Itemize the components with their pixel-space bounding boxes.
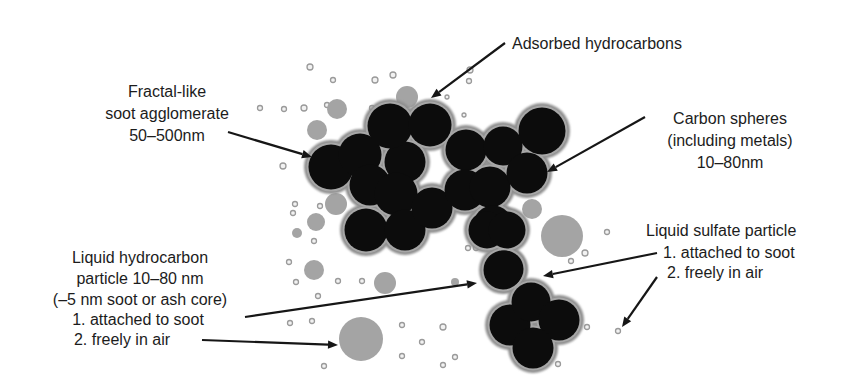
label-line: 10–80nm [697,154,764,171]
small-particle [310,319,315,324]
small-particle [582,250,588,256]
label-line: Fractal-like [128,83,206,100]
label-line: (including metals) [667,132,792,149]
label-line: 1. attached to soot [72,311,204,328]
label-line: soot agglomerate [105,105,229,122]
label-line: Liquid sulfate particle [646,222,796,239]
small-particle [312,239,317,244]
small-particle [616,329,621,334]
liquid-particle [374,272,396,294]
small-particle [360,279,365,284]
small-particle [280,163,286,169]
small-particle [372,77,378,83]
small-particle [318,204,323,209]
carbon-sphere-core [375,173,418,216]
small-particle [288,321,293,326]
small-particle [322,364,327,369]
carbon-sphere-core [513,328,554,369]
small-particle [287,260,292,265]
small-particle [445,95,449,99]
label-line: (–5 nm soot or ash core) [53,291,227,308]
carbon-sphere-core [345,209,388,252]
small-particle [307,64,313,70]
carbon-sphere-core [470,167,511,208]
carbon-sphere-core [519,108,566,155]
small-particle [331,78,336,83]
liquid-particle [327,99,347,119]
carbon-sphere-core [489,212,526,249]
small-particle [400,323,405,328]
small-particle [466,246,471,251]
liquid-particle [292,228,302,238]
liquid-particle [304,260,324,280]
small-particle [420,340,425,345]
small-particle [605,230,610,235]
small-particle [294,280,299,285]
small-particle [569,259,574,264]
small-particle [462,113,466,117]
liquid-particle [541,215,583,257]
liquid-particle [307,120,327,140]
small-particle [316,294,321,299]
label-adsorbed: Adsorbed hydrocarbons [512,35,682,52]
label-line: Adsorbed hydrocarbons [512,35,682,52]
label-line: 2. freely in air [74,331,171,348]
small-particle [293,202,298,207]
small-particle [258,106,263,111]
small-particle [336,279,341,284]
label-line: 1. attached to soot [663,244,795,261]
label-line: 50–500nm [129,127,205,144]
small-particle [390,72,396,78]
label-line: Liquid hydrocarbon [72,249,208,266]
small-particle [556,362,561,367]
carbon-sphere-core [368,104,413,149]
carbon-sphere-core [484,251,523,290]
small-particle [291,211,296,216]
small-particle [453,355,458,360]
small-particle [400,354,405,359]
label-line: particle 10–80 nm [76,270,203,287]
small-particle [440,324,446,330]
liquid-particle [325,193,347,215]
small-particle [301,105,307,111]
label-line: Carbon spheres [673,110,787,127]
small-particle [585,325,590,330]
carbon-sphere-core [507,153,548,194]
liquid-particle [307,213,325,231]
small-particle [467,79,472,84]
label-line: 2. freely in air [667,264,764,281]
small-particle [282,107,287,112]
liquid-particle [339,317,383,361]
carbon-sphere-core [446,130,487,171]
carbon-sphere-core [409,104,452,147]
diesel-particle-diagram: Fractal-likesoot agglomerate50–500nmAdso… [0,0,866,391]
small-particle [441,363,446,368]
